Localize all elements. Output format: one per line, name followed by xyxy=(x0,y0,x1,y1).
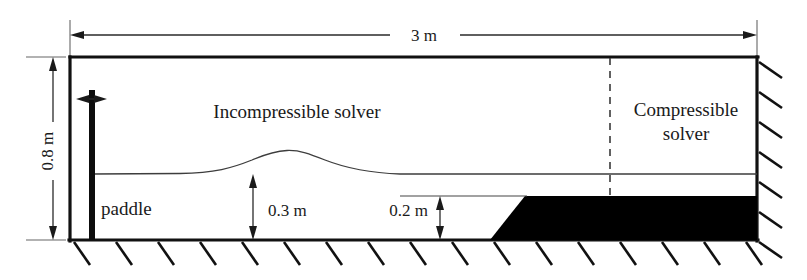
step-depth-label: 0.2 m xyxy=(389,201,428,220)
length-arrowhead-right xyxy=(743,31,757,39)
water-depth-arrowhead-bottom xyxy=(249,226,257,240)
tank-length-dimension: 3 m xyxy=(70,20,757,60)
paddle-label: paddle xyxy=(101,198,152,219)
solitary-wave-profile xyxy=(92,150,757,174)
wave-tank-diagram: 3 m 0.8 m xyxy=(0,0,807,280)
length-arrowhead-left xyxy=(70,31,84,39)
tank-length-label: 3 m xyxy=(411,26,437,45)
paddle-motion-arrowhead-left xyxy=(76,95,89,103)
step-depth-arrowhead-bottom xyxy=(436,226,444,240)
tank-height-label: 0.8 m xyxy=(38,132,57,171)
paddle-body xyxy=(89,90,95,240)
height-arrowhead-bottom xyxy=(49,226,57,240)
water-depth-dimension: 0.3 m xyxy=(249,174,307,240)
submerged-step-ramp xyxy=(490,196,757,240)
water-depth-label: 0.3 m xyxy=(268,201,307,220)
incompressible-solver-label: Incompressible solver xyxy=(213,101,381,122)
right-wall-hatching xyxy=(759,62,782,258)
diagram-canvas: 3 m 0.8 m xyxy=(0,0,807,280)
water-depth-arrowhead-top xyxy=(249,174,257,188)
paddle-motion-arrowhead-right xyxy=(94,95,107,103)
compressible-solver-label-line2: solver xyxy=(663,123,710,144)
free-surface xyxy=(92,150,757,174)
step-depth-arrowhead-top xyxy=(436,196,444,210)
wavemaker-paddle: paddle xyxy=(76,90,152,240)
bottom-wall-hatching xyxy=(74,242,762,265)
compressible-solver-label-line1: Compressible xyxy=(634,99,739,120)
height-arrowhead-top xyxy=(49,57,57,71)
tank-height-dimension: 0.8 m xyxy=(26,57,66,240)
